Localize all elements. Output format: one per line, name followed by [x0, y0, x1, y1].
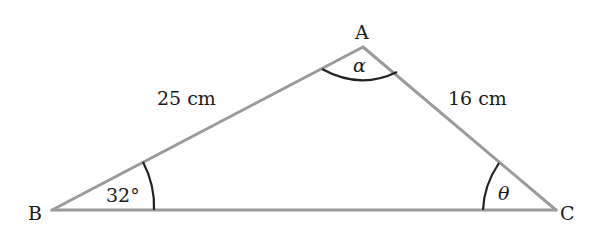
angle-label-b: 32° — [106, 184, 140, 206]
vertex-label-a: A — [354, 21, 369, 43]
side-label-ac: 16 cm — [448, 87, 507, 109]
angle-label-theta: θ — [498, 182, 510, 204]
side-ac — [363, 47, 556, 210]
angle-arc-c — [483, 163, 499, 210]
vertex-label-c: C — [560, 202, 575, 224]
vertex-label-b: B — [28, 202, 42, 224]
side-ab — [52, 47, 363, 210]
side-label-ab: 25 cm — [157, 87, 216, 109]
triangle-diagram: A B C 25 cm 16 cm α 32° θ — [0, 0, 595, 234]
angle-arc-b — [143, 162, 154, 210]
angle-label-alpha: α — [353, 54, 366, 76]
